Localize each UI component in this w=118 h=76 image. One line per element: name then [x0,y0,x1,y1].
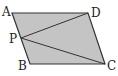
geometry-diagram: A D P B C [0,0,118,76]
parallelogram-abcd [12,13,105,64]
label-c: C [107,59,116,73]
label-d: D [91,6,101,20]
label-b: B [18,59,27,73]
label-a: A [1,5,11,19]
label-p: P [9,32,17,46]
